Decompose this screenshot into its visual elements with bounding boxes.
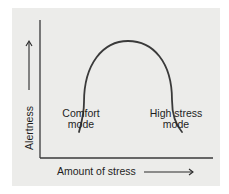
y-axis-arrow-icon <box>26 41 32 90</box>
x-axis-arrow-icon <box>144 169 193 175</box>
high-stress-mode-line2: mode <box>147 119 205 130</box>
high-stress-mode-label: High stress mode <box>147 108 205 130</box>
comfort-mode-label: Comfort mode <box>58 108 104 130</box>
y-axis-label: Alertness <box>23 106 35 150</box>
x-axis-label: Amount of stress <box>57 166 136 177</box>
comfort-mode-line2: mode <box>58 119 104 130</box>
